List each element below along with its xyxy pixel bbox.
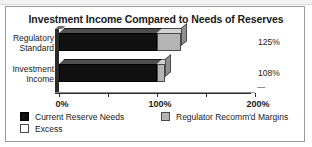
- x-tick-50: [108, 93, 109, 97]
- value-label-investment-income: 108%: [258, 68, 280, 78]
- bar-segment-current-reserve-needs: [59, 64, 157, 82]
- legend-label: Regulator Recomm'd Margins: [176, 112, 288, 122]
- x-tick-150: [206, 93, 207, 97]
- legend-swatch-icon: [20, 112, 29, 121]
- scan-artifact-strip: [0, 0, 312, 5]
- x-axis-tick-label-200: 200%: [246, 99, 269, 109]
- plot-area: Regulatory Standard Investment Income 0%…: [6, 29, 306, 107]
- legend-label: Current Reserve Needs: [35, 112, 124, 122]
- x-axis-tick-label-100: 100%: [148, 99, 171, 109]
- bar-side-face: [181, 23, 187, 46]
- legend-label: Excess: [35, 124, 62, 134]
- value-label-regulatory-standard: 125%: [258, 37, 280, 47]
- chart-title: Investment Income Compared to Needs of R…: [6, 13, 306, 25]
- y-axis-label-investment-income: Investment Income: [0, 64, 54, 84]
- chart-frame: Investment Income Compared to Needs of R…: [5, 6, 305, 142]
- bar-segment-current-reserve-needs: [59, 33, 157, 51]
- y-axis-label-regulatory-standard: Regulatory Standard: [0, 33, 54, 53]
- y-label-line-1: Investment: [0, 64, 54, 74]
- bar-segment-regulator-margins: [157, 33, 181, 51]
- x-axis-tick-label-0: 0%: [55, 99, 68, 109]
- legend-item-regulator-margins: Regulator Recomm'd Margins: [161, 111, 288, 122]
- legend-column-left: Current Reserve Needs Excess: [20, 111, 124, 135]
- legend-item-excess: Excess: [20, 123, 124, 134]
- legend-swatch-icon: [161, 112, 170, 121]
- y-label-line-2: Standard: [0, 43, 54, 53]
- chart-legend: Current Reserve Needs Excess Regulator R…: [6, 111, 306, 141]
- y-label-line-2: Income: [0, 74, 54, 84]
- legend-item-current-reserve-needs: Current Reserve Needs: [20, 111, 124, 122]
- x-tick-0: [59, 93, 60, 97]
- bar-segment-regulator-margins: [157, 64, 165, 82]
- y-label-line-1: Regulatory: [0, 33, 54, 43]
- x-tick-200: [255, 93, 256, 97]
- legend-swatch-icon: [20, 124, 29, 133]
- x-axis-line: [55, 93, 251, 94]
- legend-column-right: Regulator Recomm'd Margins: [161, 111, 288, 123]
- x-tick-100: [157, 93, 158, 97]
- bar-side-face: [165, 54, 171, 77]
